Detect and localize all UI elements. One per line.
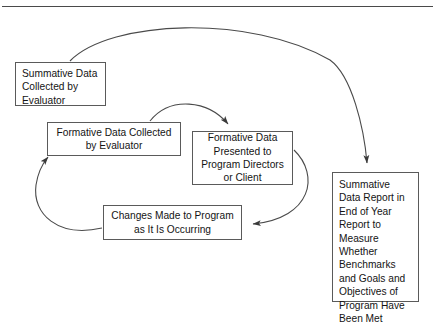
node-changes-made-to-program-label: Changes Made to Program as It Is Occurri…: [110, 209, 235, 236]
node-summative-data-collected-label: Summative Data Collected by Evaluator: [22, 67, 99, 107]
connector-formative-collected-to-presented: [150, 104, 228, 124]
node-formative-data-collected-label: Formative Data Collected by Evaluator: [54, 126, 174, 153]
node-summative-data-report-label: Summative Data Report in End of Year Rep…: [339, 178, 412, 325]
connector-changes-to-formative-collected: [36, 157, 102, 230]
node-formative-data-presented: Formative Data Presented to Program Dire…: [192, 131, 293, 185]
node-formative-data-collected: Formative Data Collected by Evaluator: [47, 122, 181, 156]
node-changes-made-to-program: Changes Made to Program as It Is Occurri…: [103, 205, 242, 240]
node-summative-data-collected: Summative Data Collected by Evaluator: [15, 62, 106, 106]
node-summative-data-report: Summative Data Report in End of Year Rep…: [332, 172, 419, 302]
node-formative-data-presented-label: Formative Data Presented to Program Dire…: [199, 131, 286, 185]
